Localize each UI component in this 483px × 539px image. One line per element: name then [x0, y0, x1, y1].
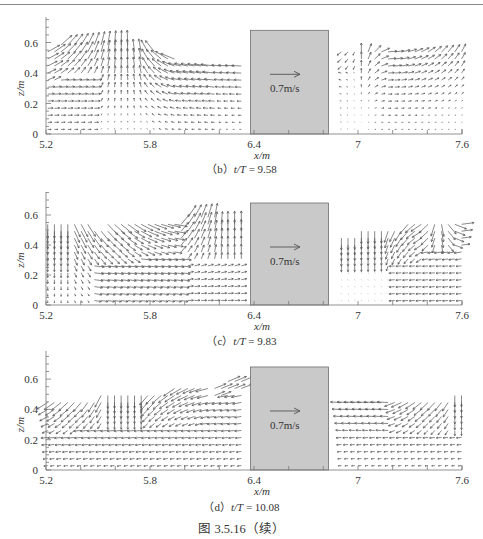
y-tick-label: 0.4 — [24, 239, 38, 251]
y-tick-label: 0 — [33, 128, 39, 140]
y-tick-label: 0.2 — [24, 434, 38, 446]
caption-d-value: = 10.08 — [246, 501, 280, 513]
panel-b: 0.7m/s00.20.40.65.25.86.477.6x/mz/m （b）t… — [0, 0, 483, 180]
x-tick-label: 7 — [355, 138, 361, 150]
panel-c: 0.7m/s00.20.40.65.25.86.477.6x/mz/m （c）t… — [0, 174, 483, 354]
velocity-vectors — [37, 376, 463, 466]
reference-vector-label: 0.7m/s — [270, 255, 300, 267]
x-tick-label: 7.6 — [455, 474, 469, 486]
y-tick-label: 0.2 — [24, 98, 38, 110]
y-tick-label: 0.6 — [24, 373, 38, 385]
y-tick-label: 0 — [33, 464, 39, 476]
y-axis-label: z/m — [14, 252, 26, 268]
quiver-plot-c: 0.7m/s00.20.40.65.25.86.477.6x/mz/m — [0, 174, 483, 354]
x-tick-label: 5.2 — [39, 138, 53, 150]
caption-d-prefix: （d） — [203, 501, 231, 513]
x-tick-label: 5.2 — [39, 309, 53, 321]
x-tick-label: 7 — [355, 474, 361, 486]
x-tick-label: 7.6 — [455, 138, 469, 150]
x-tick-label: 7 — [355, 309, 361, 321]
reference-vector-label: 0.7m/s — [270, 419, 300, 431]
x-axis-label: x/m — [253, 320, 270, 332]
y-axis-label: z/m — [14, 81, 26, 97]
x-tick-label: 7.6 — [455, 309, 469, 321]
x-tick-label: 5.8 — [143, 138, 157, 150]
y-axis-label: z/m — [14, 417, 26, 433]
panel-d: 0.7m/s00.20.40.65.25.86.477.6x/mz/m （d）t… — [0, 337, 483, 517]
y-tick-label: 0.6 — [24, 37, 38, 49]
y-tick-label: 0.4 — [24, 403, 38, 415]
quiver-plot-b: 0.7m/s00.20.40.65.25.86.477.6x/mz/m — [0, 0, 483, 180]
quiver-plot-d: 0.7m/s00.20.40.65.25.86.477.6x/mz/m — [0, 337, 483, 517]
structure-box — [251, 203, 329, 305]
y-tick-label: 0.4 — [24, 67, 38, 79]
caption-d: （d）t/T = 10.08 — [0, 498, 483, 514]
x-axis-label: x/m — [253, 485, 270, 497]
x-tick-label: 5.2 — [39, 474, 53, 486]
y-tick-label: 0.6 — [24, 209, 38, 221]
caption-d-var: t/T — [231, 501, 243, 513]
y-tick-label: 0 — [33, 299, 39, 311]
y-tick-label: 0.2 — [24, 269, 38, 281]
figure-caption: 图 3.5.16（续） — [0, 518, 483, 537]
x-tick-label: 5.8 — [143, 474, 157, 486]
x-tick-label: 5.8 — [143, 309, 157, 321]
reference-vector-label: 0.7m/s — [270, 82, 300, 94]
